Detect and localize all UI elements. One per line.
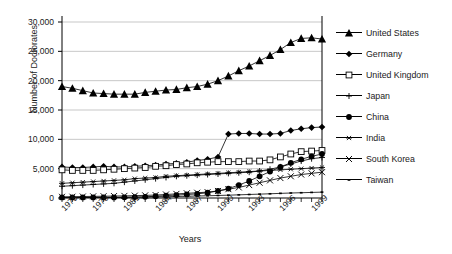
legend-marker-triangle-icon xyxy=(336,27,362,39)
legend-label: Germany xyxy=(366,49,402,59)
legend-marker-open-square-icon xyxy=(336,69,362,81)
legend-marker-cross-icon xyxy=(336,153,362,165)
legend-marker-asterisk-icon xyxy=(336,132,362,144)
x-tick-label: 1984 xyxy=(153,193,173,213)
x-tick-label: 1978 xyxy=(90,193,110,213)
legend-label: United States xyxy=(366,28,419,38)
legend-label: Japan xyxy=(366,91,390,101)
legend: United StatesGermanyUnited KingdomJapanC… xyxy=(336,22,452,190)
legend-item[interactable]: Germany xyxy=(336,43,452,64)
x-tick-label: 1999 xyxy=(309,193,329,213)
legend-marker-filled-circle-icon xyxy=(336,111,362,123)
chart-container: Number of Doctorates Years 05,00010,0001… xyxy=(0,0,452,254)
legend-item[interactable]: United Kingdom xyxy=(336,64,452,85)
legend-item[interactable]: Taiwan xyxy=(336,169,452,190)
legend-item[interactable]: Japan xyxy=(336,85,452,106)
x-tick-label: 1993 xyxy=(246,193,266,213)
x-tick-label: 1990 xyxy=(215,193,235,213)
legend-item[interactable]: India xyxy=(336,127,452,148)
legend-item[interactable]: United States xyxy=(336,22,452,43)
legend-item[interactable]: South Korea xyxy=(336,148,452,169)
x-tick-label: 1996 xyxy=(277,193,297,213)
legend-label: Taiwan xyxy=(366,175,393,185)
legend-label: United Kingdom xyxy=(366,70,429,80)
legend-label: China xyxy=(366,112,389,122)
legend-marker-plus-icon xyxy=(336,90,362,102)
legend-marker-small-dash-icon xyxy=(336,174,362,186)
legend-label: India xyxy=(366,133,385,143)
x-tick-label: 1975 xyxy=(59,193,79,213)
x-tick-label: 1981 xyxy=(121,193,141,213)
x-tick-label: 1987 xyxy=(184,193,204,213)
legend-label: South Korea xyxy=(366,154,415,164)
legend-item[interactable]: China xyxy=(336,106,452,127)
legend-marker-diamond-icon xyxy=(336,48,362,60)
